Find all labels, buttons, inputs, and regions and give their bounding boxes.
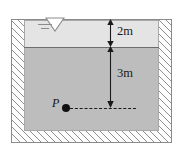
water-surface-dash-long (38, 24, 52, 25)
point-p-leader-line (70, 108, 136, 109)
dimension-label-3m: 3m (117, 66, 133, 81)
point-p-marker (62, 104, 70, 112)
dimension-label-2m: 2m (117, 24, 133, 39)
lower-fluid-layer (24, 47, 159, 131)
dimension-arrow-3m (104, 46, 117, 108)
water-surface-triangle-icon (36, 4, 54, 17)
fluid-cavity (24, 20, 159, 131)
dimension-arrow-2m (104, 19, 117, 47)
water-surface-dash-short (41, 28, 49, 29)
layer-interface-line (24, 47, 159, 48)
figure-caption (0, 157, 183, 168)
point-p-label: P (52, 96, 59, 111)
figure-root: 2m 3m P (0, 0, 183, 168)
